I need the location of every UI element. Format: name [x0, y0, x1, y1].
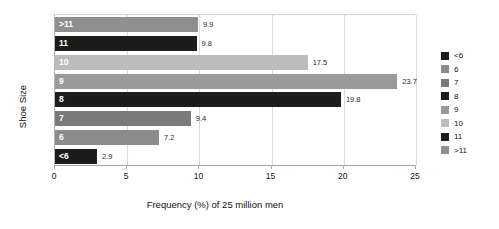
- y-axis-title-text: Shoe Size: [18, 84, 29, 127]
- bar-value-label: 9.9: [203, 17, 213, 32]
- legend-item: >11: [441, 144, 467, 158]
- bar-row: 67.2: [55, 130, 415, 145]
- bar-category-label: 10: [59, 55, 68, 70]
- bar: [55, 130, 159, 145]
- legend-item: 10: [441, 117, 467, 131]
- legend-item: <6: [441, 49, 467, 63]
- y-axis-title: Shoe Size: [14, 52, 32, 160]
- bar: [55, 55, 308, 70]
- bar-row: 79.4: [55, 111, 415, 126]
- bar-row: 923.7: [55, 74, 415, 89]
- legend-swatch: [441, 52, 449, 60]
- bar-row: <62.9: [55, 149, 415, 164]
- bar: [55, 17, 198, 32]
- legend-swatch: [441, 79, 449, 87]
- bar-value-label: 19.8: [346, 92, 361, 107]
- legend-item: 7: [441, 76, 467, 90]
- bar-category-label: 9: [59, 74, 64, 89]
- bar-value-label: 17.5: [313, 55, 328, 70]
- bar: [55, 36, 197, 51]
- legend-swatch: [441, 146, 449, 154]
- legend-item: 8: [441, 90, 467, 104]
- x-axis: [54, 165, 415, 166]
- legend-label: 11: [454, 132, 462, 141]
- legend-label: 10: [454, 119, 463, 128]
- x-axis-tick-label: 5: [124, 171, 129, 181]
- legend-label: 8: [454, 92, 458, 101]
- gridline: [416, 15, 417, 165]
- bar-category-label: <6: [59, 149, 69, 164]
- legend-label: <6: [454, 51, 463, 60]
- bar-value-label: 7.2: [164, 130, 174, 145]
- x-axis-tick: [271, 165, 272, 169]
- bar-value-label: 23.7: [402, 74, 417, 89]
- legend-item: 9: [441, 103, 467, 117]
- x-axis-tick: [126, 165, 127, 169]
- plot-area: >119.9119.81017.5923.7819.879.467.2<62.9: [54, 14, 415, 165]
- x-axis-tick-label: 20: [338, 171, 347, 181]
- legend-swatch: [441, 92, 449, 100]
- bar: [55, 74, 397, 89]
- legend-swatch: [441, 133, 449, 141]
- x-axis-tick-label: 15: [266, 171, 275, 181]
- bar-value-label: 2.9: [102, 149, 112, 164]
- legend-swatch: [441, 65, 449, 73]
- bar: [55, 111, 191, 126]
- legend-item: 11: [441, 130, 467, 144]
- bar-value-label: 9.8: [202, 36, 212, 51]
- bar-category-label: 11: [59, 36, 68, 51]
- bar-category-label: 8: [59, 92, 64, 107]
- legend-swatch: [441, 106, 449, 114]
- legend: <667891011>11: [441, 49, 467, 157]
- legend-label: >11: [454, 146, 467, 155]
- bar-series: >119.9119.81017.5923.7819.879.467.2<62.9: [55, 15, 415, 165]
- legend-label: 9: [454, 105, 458, 114]
- x-axis-tick-label: 25: [410, 171, 419, 181]
- bar-category-label: >11: [59, 17, 73, 32]
- x-axis-tick: [343, 165, 344, 169]
- bar-row: 119.8: [55, 36, 415, 51]
- legend-label: 6: [454, 65, 458, 74]
- bar-value-label: 9.4: [196, 111, 206, 126]
- x-axis-tick: [54, 165, 55, 169]
- bar: [55, 92, 341, 107]
- legend-item: 6: [441, 63, 467, 77]
- bar-row: 819.8: [55, 92, 415, 107]
- x-axis-title: Frequency (%) of 25 million men: [0, 199, 430, 210]
- legend-label: 7: [454, 78, 458, 87]
- x-axis-tick-label: 10: [194, 171, 203, 181]
- legend-swatch: [441, 119, 449, 127]
- x-axis-tick-label: 0: [52, 171, 57, 181]
- bar-row: >119.9: [55, 17, 415, 32]
- bar-category-label: 6: [59, 130, 64, 145]
- bar-row: 1017.5: [55, 55, 415, 70]
- bar-category-label: 7: [59, 111, 64, 126]
- x-axis-tick: [415, 165, 416, 169]
- bar-chart-figure: Shoe Size >119.9119.81017.5923.7819.879.…: [0, 0, 499, 229]
- x-axis-tick: [198, 165, 199, 169]
